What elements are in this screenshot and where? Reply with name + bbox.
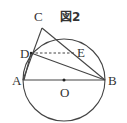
- label-o: O: [60, 85, 69, 100]
- label-c: C: [34, 9, 43, 24]
- segment-db: [31, 53, 105, 80]
- label-a: A: [12, 73, 22, 88]
- geometry-figure: 図2 C D E A B O: [0, 0, 127, 123]
- label-e: E: [77, 45, 85, 60]
- point-o: [63, 79, 66, 82]
- label-d: D: [20, 46, 29, 61]
- point-d: [30, 52, 32, 54]
- label-b: B: [108, 73, 117, 88]
- figure-title: 図2: [60, 10, 80, 24]
